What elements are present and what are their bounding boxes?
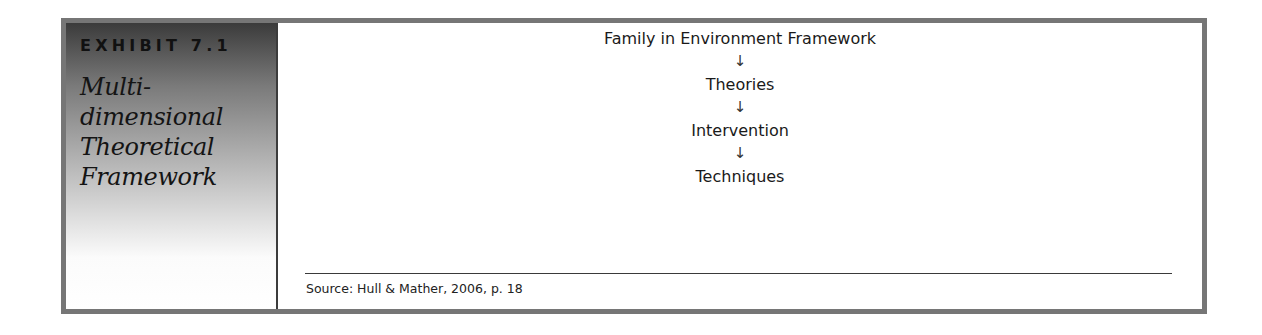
framework-flow-diagram: Family in Environment Framework ↓ Theori… bbox=[278, 27, 1202, 188]
exhibit-title-line: dimensional bbox=[80, 102, 276, 132]
flow-step-techniques: Techniques bbox=[278, 165, 1202, 188]
exhibit-title: Multi- dimensional Theoretical Framework bbox=[80, 72, 276, 192]
flow-step-theories: Theories bbox=[278, 73, 1202, 96]
exhibit-content: Family in Environment Framework ↓ Theori… bbox=[278, 23, 1202, 309]
exhibit-label-panel: EXHIBIT 7.1 Multi- dimensional Theoretic… bbox=[66, 23, 278, 309]
down-arrow-icon: ↓ bbox=[278, 96, 1202, 119]
flow-step-family-in-environment: Family in Environment Framework bbox=[278, 27, 1202, 50]
exhibit-title-line: Framework bbox=[80, 162, 276, 192]
flow-step-intervention: Intervention bbox=[278, 119, 1202, 142]
source-divider bbox=[305, 273, 1172, 274]
down-arrow-icon: ↓ bbox=[278, 142, 1202, 165]
exhibit-number: EXHIBIT 7.1 bbox=[80, 36, 276, 56]
source-citation: Source: Hull & Mather, 2006, p. 18 bbox=[306, 281, 523, 296]
exhibit-box: EXHIBIT 7.1 Multi- dimensional Theoretic… bbox=[61, 18, 1207, 314]
exhibit-title-line: Multi- bbox=[80, 72, 276, 102]
down-arrow-icon: ↓ bbox=[278, 50, 1202, 73]
exhibit-title-line: Theoretical bbox=[80, 132, 276, 162]
